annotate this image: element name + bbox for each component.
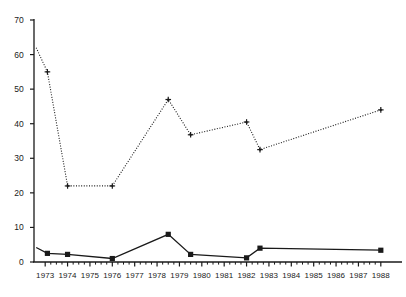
data-point-marker [165, 97, 171, 103]
series-line-lower-series [36, 234, 381, 258]
series-line-upper-series [36, 48, 381, 186]
data-point-marker [257, 147, 263, 153]
data-point-marker [45, 251, 50, 256]
data-point-marker [378, 248, 383, 253]
chart-container: 010203040506070 197319741975197619771978… [0, 0, 406, 297]
data-point-marker [257, 246, 262, 251]
data-point-marker [110, 183, 116, 189]
data-point-marker [45, 69, 51, 75]
data-point-marker [188, 252, 193, 257]
data-point-marker [378, 107, 384, 113]
data-point-marker [110, 256, 115, 261]
plot-area [0, 0, 406, 297]
data-point-marker [244, 119, 250, 125]
data-point-marker [65, 183, 71, 189]
data-point-marker [65, 252, 70, 257]
data-point-marker [244, 255, 249, 260]
data-point-marker [166, 232, 171, 237]
data-point-marker [188, 132, 194, 138]
